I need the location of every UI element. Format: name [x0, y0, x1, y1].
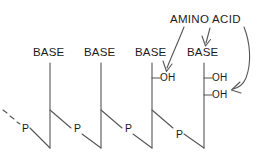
backbone-diagonal-3-lower	[133, 134, 152, 148]
phosphate-label-3: P	[125, 123, 132, 134]
base-label-4: BASE	[187, 47, 218, 59]
oh-label-4b: OH	[212, 90, 227, 100]
backbone-diagonal-4-lower	[184, 134, 204, 148]
backbone-diagonal-2-upper	[101, 110, 122, 128]
dash-segment-3	[17, 122, 20, 124]
base-label-2: BASE	[84, 47, 115, 59]
phosphate-label-4: P	[176, 129, 183, 140]
phosphate-label-2: P	[74, 123, 81, 134]
backbone-diagonal-1-lower	[30, 128, 50, 148]
dash-segment-1	[3, 110, 7, 113]
base-label-3: BASE	[135, 47, 166, 59]
amino-acid-label: AMINO ACID	[170, 14, 241, 26]
phosphate-label-1: P	[22, 123, 29, 134]
amino-acid-arrow-1-shaft	[167, 27, 184, 68]
dash-segment-2	[10, 116, 14, 119]
backbone-diagonal-2-lower	[82, 134, 101, 148]
oh-label-4a: OH	[212, 73, 227, 83]
amino-acid-arrow-3-shaft	[233, 27, 250, 89]
backbone-diagonal-3-upper	[152, 110, 173, 128]
backbone-diagonal-1-upper	[50, 110, 71, 128]
base-label-1: BASE	[33, 47, 64, 59]
oh-label-3a: OH	[160, 73, 175, 83]
diagram-canvas: AMINO ACID BASE BASE BASE BASE OH OH OH …	[0, 0, 261, 162]
